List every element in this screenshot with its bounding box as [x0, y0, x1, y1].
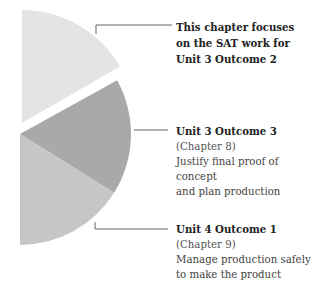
label-title-line: This chapter focuses: [176, 19, 294, 35]
label-title: Unit 3 Outcome 3: [176, 124, 317, 139]
leader-line-unit4-outcome1: [95, 222, 168, 229]
label-description-line: Manage production safely: [176, 252, 311, 267]
label-unit4-outcome1: Unit 4 Outcome 1 (Chapter 9) Manage prod…: [176, 222, 311, 282]
label-description-line: and plan production: [176, 184, 317, 199]
label-title-line: on the SAT work for: [176, 35, 294, 51]
leader-line-unit3-outcome2: [96, 25, 172, 34]
label-description-line: Justify final proof of concept: [176, 154, 317, 184]
label-chapter: (Chapter 9): [176, 237, 311, 252]
label-title: Unit 4 Outcome 1: [176, 222, 311, 237]
label-chapter: (Chapter 8): [176, 139, 317, 154]
label-unit3-outcome3: Unit 3 Outcome 3 (Chapter 8) Justify fin…: [176, 124, 317, 199]
label-unit3-outcome2: This chapter focuses on the SAT work for…: [176, 19, 294, 67]
label-title-line: Unit 3 Outcome 2: [176, 51, 294, 67]
label-description-line: to make the product: [176, 267, 311, 282]
